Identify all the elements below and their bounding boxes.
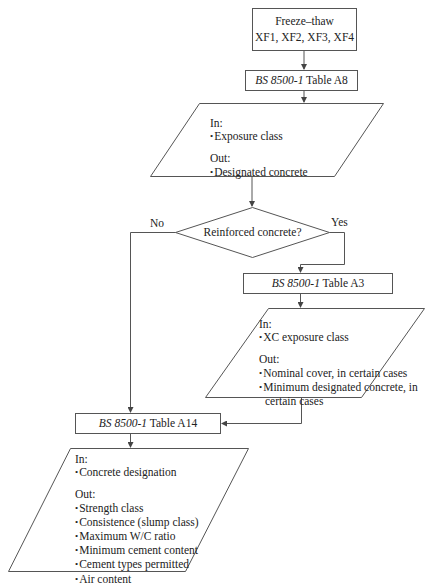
decision-question: Reinforced concrete? xyxy=(190,225,315,239)
io-a14-text: In: Concrete designation Out: Strength c… xyxy=(75,453,199,587)
flowchart-canvas xyxy=(0,0,433,587)
table-a3-label: BS 8500-1 Table A3 xyxy=(243,276,393,290)
io-a14-out-item-1: Strength class xyxy=(75,502,199,516)
io-a8-out-item: Designated concrete xyxy=(210,166,308,180)
io-a8-in-label: In: xyxy=(210,117,308,130)
io-a3-out-label: Out: xyxy=(259,353,418,366)
decision-no-label: No xyxy=(150,216,164,230)
start-label-line2: XF1, XF2, XF3, XF4 xyxy=(252,30,357,44)
table-a8-label: BS 8500-1 Table A8 xyxy=(245,73,358,87)
io-a14-in-item: Concrete designation xyxy=(75,466,199,480)
table-a3-standard: BS 8500-1 xyxy=(272,277,320,289)
io-a8-out-label: Out: xyxy=(210,152,308,165)
no-branch-line xyxy=(131,233,176,413)
io-a14-out-label: Out: xyxy=(75,488,199,501)
io-a14-out-item-4: Minimum cement content xyxy=(75,544,199,558)
io-a3-out-item-1: Nominal cover, in certain cases xyxy=(259,367,418,381)
io-a3-text: In: XC exposure class Out: Nominal cover… xyxy=(259,318,418,408)
io-a14-out-item-6: Air content xyxy=(75,573,199,587)
io-a3-out-item-2-cont: certain cases xyxy=(259,395,418,408)
io-a3-in-label: In: xyxy=(259,318,418,331)
io-a8-text: In: Exposure class Out: Designated concr… xyxy=(210,117,308,180)
io-a14-out-item-3: Maximum W/C ratio xyxy=(75,530,199,544)
start-label-line1: Freeze–thaw xyxy=(252,14,357,28)
table-a14-label: BS 8500-1 Table A14 xyxy=(75,416,221,430)
io-a3-in-item: XC exposure class xyxy=(259,331,418,345)
table-a3-table: Table A3 xyxy=(320,277,364,289)
io-a3-out-item-2: Minimum designated concrete, in xyxy=(259,381,418,395)
io-a14-in-label: In: xyxy=(75,453,199,466)
table-a14-standard: BS 8500-1 xyxy=(99,417,147,429)
table-a8-standard: BS 8500-1 xyxy=(255,74,303,86)
decision-yes-label: Yes xyxy=(331,215,348,229)
table-a8-table: Table A8 xyxy=(303,74,347,86)
io-a8-in-item: Exposure class xyxy=(210,130,308,144)
io-a14-out-item-2: Consistence (slump class) xyxy=(75,516,199,530)
io-a14-out-item-5: Cement types permitted xyxy=(75,558,199,572)
table-a14-table: Table A14 xyxy=(147,417,197,429)
